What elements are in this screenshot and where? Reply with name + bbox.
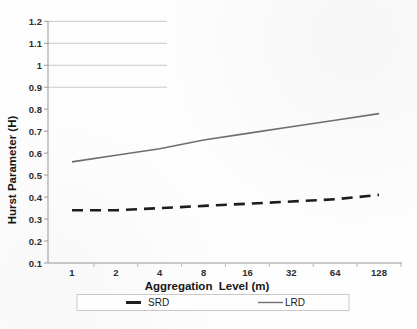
x-tick-label: 4 [157, 267, 163, 278]
legend-srd-label: SRD [148, 297, 169, 308]
legend: SRD LRD [77, 295, 349, 311]
y-tick-label: 1.1 [29, 38, 43, 49]
gridlines [48, 21, 167, 87]
x-tick-label: 1 [69, 267, 75, 278]
hurst-parameter-chart: 0.10.20.30.40.50.60.70.80.911.11.2124816… [0, 0, 417, 329]
tick-marks-and-labels: 0.10.20.30.40.50.60.70.80.911.11.2124816… [29, 16, 401, 278]
y-tick-label: 1 [37, 60, 43, 71]
y-tick-label: 0.5 [29, 170, 43, 181]
legend-lrd-label: LRD [285, 297, 305, 308]
y-tick-label: 0.6 [29, 148, 42, 159]
y-tick-label: 0.9 [29, 82, 42, 93]
series-lines [72, 114, 379, 211]
y-tick-label: 0.2 [29, 236, 42, 247]
legend-box [77, 295, 349, 311]
y-tick-label: 1.2 [29, 16, 42, 27]
y-tick-label: 0.7 [29, 126, 42, 137]
series-line-lrd [72, 114, 379, 162]
x-tick-label: 2 [113, 267, 118, 278]
x-tick-label: 16 [242, 267, 253, 278]
series-line-srd [72, 195, 379, 210]
y-axis-title: Hurst Parameter (H) [6, 116, 18, 225]
x-tick-label: 64 [330, 267, 341, 278]
x-tick-label: 8 [201, 267, 206, 278]
x-tick-label: 32 [286, 267, 297, 278]
x-tick-label: 128 [371, 267, 387, 278]
chart-canvas: 0.10.20.30.40.50.60.70.80.911.11.2124816… [0, 0, 417, 329]
y-tick-label: 0.8 [29, 104, 42, 115]
axes [48, 21, 402, 263]
y-tick-label: 0.4 [29, 192, 43, 203]
x-axis-title: Aggregation Level (m) [145, 280, 270, 292]
y-tick-label: 0.1 [29, 258, 43, 269]
y-tick-label: 0.3 [29, 214, 42, 225]
